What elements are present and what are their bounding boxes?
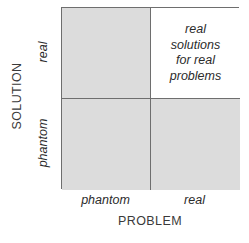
- y-axis-title: SOLUTION: [10, 40, 24, 152]
- x-axis-title: PROBLEM: [61, 214, 239, 228]
- y-axis-tick-phantom: phantom: [36, 100, 50, 186]
- quadrant-grid: real solutions for real problems: [61, 7, 239, 189]
- quadrant-real-solution-real-problem: real solutions for real problems: [151, 8, 240, 99]
- x-axis-tick-phantom: phantom: [61, 193, 150, 207]
- quadrant-real-solution-phantom-problem: [62, 8, 151, 99]
- quadrant-top-right-label: real solutions for real problems: [151, 22, 240, 84]
- matrix-diagram: SOLUTION real phantom real solutions for…: [0, 0, 249, 243]
- quadrant-phantom-solution-real-problem: [151, 99, 240, 190]
- quadrant-phantom-solution-phantom-problem: [62, 99, 151, 190]
- x-axis-tick-real: real: [150, 193, 239, 207]
- y-axis-tick-real: real: [36, 9, 50, 95]
